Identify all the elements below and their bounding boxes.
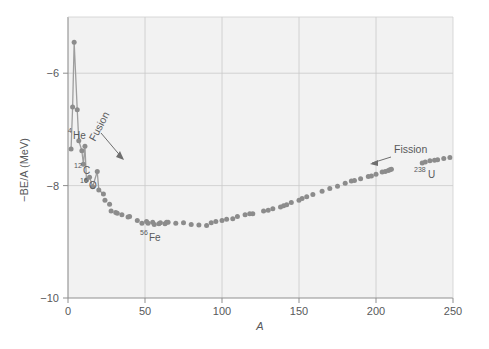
u238-mass-number: 238 [414, 166, 426, 173]
data-point [107, 202, 112, 207]
data-point [220, 218, 225, 223]
x-axis-title: A [255, 320, 263, 332]
data-point [243, 212, 248, 217]
data-point [352, 178, 357, 183]
data-point [327, 186, 332, 191]
data-point [300, 196, 305, 201]
data-point [152, 222, 157, 227]
data-point [173, 221, 178, 226]
data-point [335, 184, 340, 189]
data-point [435, 157, 440, 162]
x-tick-label-50: 50 [139, 305, 151, 317]
y-tick-label--8: −8 [46, 180, 59, 192]
data-point [204, 223, 209, 228]
data-point [230, 216, 235, 221]
y-axis-ticks: −6−8−10 [40, 67, 68, 304]
data-point [101, 192, 106, 197]
data-point [102, 198, 107, 203]
data-point [224, 217, 229, 222]
data-point [289, 200, 294, 205]
u238-symbol: U [428, 169, 435, 180]
data-point [320, 189, 325, 194]
plot-panel [68, 17, 453, 298]
data-point [423, 159, 428, 164]
data-point [115, 211, 120, 216]
data-point [250, 211, 255, 216]
c12-mass-number: 12 [74, 162, 82, 169]
data-point [209, 220, 214, 225]
data-point [266, 208, 271, 213]
data-point [96, 188, 101, 193]
data-point [75, 107, 80, 112]
data-point [270, 206, 275, 211]
data-point [310, 192, 315, 197]
y-axis-title: −BE/A (MeV) [18, 138, 30, 202]
data-point [213, 219, 218, 224]
data-point [95, 169, 100, 174]
binding-energy-figure: 050100150200250 −6−8−10 A −BE/A (MeV) Fu… [0, 0, 489, 349]
data-point [389, 167, 394, 172]
data-point [369, 174, 374, 179]
he4-symbol: He [73, 130, 86, 141]
y-tick-label--6: −6 [46, 67, 59, 79]
fission-label: Fission [394, 143, 427, 155]
data-point [146, 221, 151, 226]
data-point [135, 218, 140, 223]
fe56-mass-number: 56 [140, 229, 148, 236]
o16-mass-number: 16 [80, 177, 88, 184]
data-point [127, 214, 132, 219]
data-point [343, 181, 348, 186]
data-point [284, 202, 289, 207]
data-point [181, 220, 186, 225]
data-point [69, 147, 74, 152]
data-point [304, 194, 309, 199]
data-point [447, 155, 452, 160]
x-tick-label-100: 100 [213, 305, 231, 317]
data-point [79, 148, 84, 153]
x-tick-label-200: 200 [367, 305, 385, 317]
he4-mass-number: 4 [68, 127, 72, 134]
data-point [235, 214, 240, 219]
data-point [158, 220, 163, 225]
data-point [166, 220, 171, 225]
data-point [427, 158, 432, 163]
data-point [72, 40, 77, 45]
data-point [196, 222, 201, 227]
binding-energy-chart: 050100150200250 −6−8−10 A −BE/A (MeV) Fu… [0, 0, 489, 349]
x-axis-ticks: 050100150200250 [65, 298, 462, 317]
data-point [139, 221, 144, 226]
data-point [109, 208, 114, 213]
data-point [261, 208, 266, 213]
fe56-symbol: Fe [149, 232, 161, 243]
x-tick-label-150: 150 [290, 305, 308, 317]
o16-symbol: O [89, 180, 97, 191]
data-point [70, 104, 75, 109]
data-point [119, 212, 124, 217]
c12-symbol: C [83, 165, 90, 176]
data-point [374, 172, 379, 177]
data-point [189, 222, 194, 227]
y-tick-label--10: −10 [40, 292, 59, 304]
data-point [82, 144, 87, 149]
x-tick-label-250: 250 [444, 305, 462, 317]
x-tick-label-0: 0 [65, 305, 71, 317]
data-point [441, 156, 446, 161]
data-point [358, 176, 363, 181]
